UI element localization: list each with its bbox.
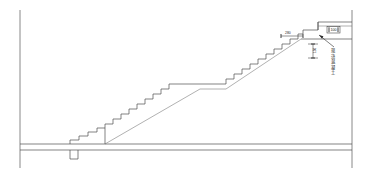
top-landing-slab — [301, 22, 352, 39]
run-dimension-text: 280 — [285, 31, 291, 35]
landing-note-text-column: 现 浇 混 凝 土 — [331, 48, 336, 75]
note-char-4: 土 — [331, 69, 335, 75]
riser-dimension-group: 150 — [308, 44, 318, 58]
ground-line-group — [20, 144, 352, 150]
stair-section-drawing: 280 150 100 现 浇 混 凝 土 — [0, 0, 368, 180]
drawing-canvas: 280 150 100 现 浇 混 凝 土 — [0, 0, 368, 180]
slab-dimension-text: 100 — [330, 28, 336, 32]
soffit-upper-rake — [226, 39, 301, 89]
footing-pit — [70, 150, 78, 159]
run-dimension-group: 280 — [281, 31, 303, 38]
soffit-lower-rake — [105, 89, 200, 144]
stair-soffit-lines — [105, 39, 301, 144]
slab-dimension-group: 100 — [327, 27, 340, 34]
landing-note-leader — [319, 35, 334, 47]
lower-entry-steps — [70, 128, 105, 144]
riser-dimension-text: 150 — [313, 48, 317, 53]
stair-treads-upper — [226, 34, 303, 84]
stair-treads-lower — [105, 84, 199, 128]
